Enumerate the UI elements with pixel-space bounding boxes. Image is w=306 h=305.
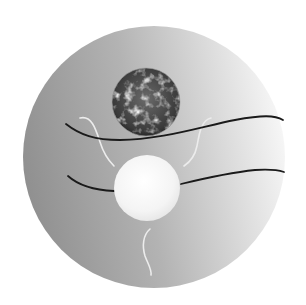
illustration <box>0 0 306 305</box>
sun-sphere <box>114 155 180 221</box>
earth-globe <box>112 68 180 136</box>
figure: Earth and Sun with field lines on a shad… <box>0 0 306 305</box>
